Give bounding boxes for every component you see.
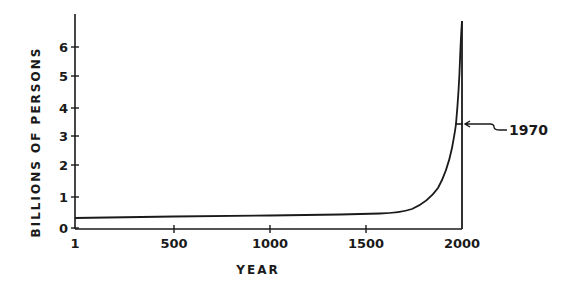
x-tick-1000: 1000 xyxy=(252,236,288,251)
y-tick-5: 5 xyxy=(59,69,68,84)
y-tick-0: 0 xyxy=(59,221,68,236)
x-axis-title: YEAR xyxy=(235,263,279,277)
y-axis-title: BILLIONS OF PERSONS xyxy=(29,47,43,238)
y-tick-6: 6 xyxy=(59,40,68,55)
arrow-1970-icon xyxy=(465,121,507,130)
y-tick-1: 1 xyxy=(59,190,68,205)
y-tick-2: 2 xyxy=(59,158,68,173)
y-tick-4: 4 xyxy=(59,101,68,116)
x-tick-1500: 1500 xyxy=(348,236,384,251)
population-chart: 0 1 2 3 4 5 6 1 500 1000 1500 2000 YEAR … xyxy=(0,0,568,292)
y-tick-labels: 0 1 2 3 4 5 6 xyxy=(59,40,68,236)
x-tick-1: 1 xyxy=(70,236,79,251)
x-tick-2000: 2000 xyxy=(444,236,480,251)
x-tick-labels: 1 500 1000 1500 2000 xyxy=(70,236,480,251)
y-tick-3: 3 xyxy=(59,129,68,144)
population-curve xyxy=(75,21,462,218)
x-tick-500: 500 xyxy=(160,236,187,251)
annotation-1970: 1970 xyxy=(509,122,548,138)
